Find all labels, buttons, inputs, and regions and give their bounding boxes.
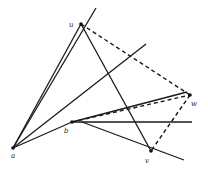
geometric-diagram: uwbav [0,0,208,174]
solid-line [13,122,72,148]
solid-line [13,24,81,148]
solid-line [13,44,146,148]
dashed-line [151,95,190,151]
vertex-label-w: w [191,100,197,108]
vertex-b [70,120,74,124]
vertex-w [188,93,192,97]
vertex-label-u: u [69,21,74,29]
vertex-label-b: b [64,127,69,135]
vertex-label-a: a [11,152,15,160]
solid-line [81,24,151,151]
dashed-line [81,24,190,95]
vertex-v [149,149,153,153]
solid-line [82,122,184,160]
vertex-labels: uwbav [11,21,197,165]
vertex-u [79,22,83,26]
vertices [11,22,192,153]
solid-lines [13,8,192,160]
vertex-label-v: v [145,157,149,165]
vertex-a [11,146,15,150]
